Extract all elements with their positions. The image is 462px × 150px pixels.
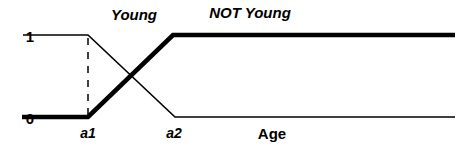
x-tick-label-a2: a2 (166, 125, 182, 141)
series-label-not-young: NOT Young (209, 4, 291, 21)
x-tick-label-a1: a1 (80, 125, 96, 141)
series-young-line (23, 35, 455, 117)
series-not-young-line (22, 35, 455, 117)
fuzzy-membership-chart: 1 0 a1 a2 Age Young NOT Young (0, 0, 462, 150)
x-axis-title: Age (258, 125, 286, 142)
y-tick-label-1: 1 (26, 28, 34, 45)
chart-canvas: 1 0 a1 a2 Age Young NOT Young (0, 0, 462, 150)
series-label-young: Young (111, 6, 157, 23)
